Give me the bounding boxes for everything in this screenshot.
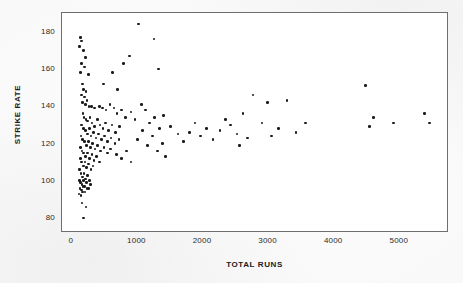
data-point — [80, 135, 83, 138]
data-points-layer — [62, 13, 447, 231]
data-point — [162, 114, 165, 117]
data-point — [205, 127, 208, 130]
data-point — [157, 68, 160, 71]
data-point — [83, 172, 86, 175]
y-tick-label: 100 — [3, 175, 55, 184]
data-point — [91, 122, 94, 125]
data-point — [86, 133, 89, 136]
data-point — [116, 112, 119, 115]
plot-area — [61, 12, 448, 232]
data-point — [116, 88, 119, 91]
data-point — [105, 109, 108, 112]
scatter-plot-figure: 80100120140160180 010002000300040005000 … — [0, 0, 463, 283]
data-point — [79, 36, 82, 39]
data-point — [364, 84, 367, 87]
data-point — [82, 217, 85, 220]
data-point — [118, 125, 121, 128]
data-point — [146, 144, 149, 147]
data-point — [81, 176, 84, 179]
data-point — [182, 140, 185, 143]
data-point — [158, 127, 161, 130]
data-point — [93, 125, 96, 128]
data-point — [78, 45, 81, 48]
data-point — [89, 183, 92, 186]
data-point — [82, 49, 85, 52]
data-point — [103, 146, 106, 149]
data-point — [109, 103, 112, 106]
data-point — [286, 99, 289, 102]
data-point — [246, 137, 249, 140]
data-point — [188, 131, 191, 134]
data-point — [224, 118, 227, 121]
data-point — [85, 144, 88, 147]
data-point — [90, 105, 93, 108]
x-axis-title: TOTAL RUNS — [61, 260, 448, 269]
data-point — [304, 122, 307, 125]
data-point — [82, 185, 85, 188]
data-point — [79, 71, 82, 74]
data-point — [153, 38, 156, 41]
data-point — [114, 131, 117, 134]
data-point — [84, 155, 87, 158]
data-point — [84, 178, 87, 181]
data-point — [96, 118, 99, 121]
x-tick-label: 2000 — [179, 236, 225, 245]
y-axis-tick-labels: 80100120140160180 — [0, 12, 55, 232]
data-point — [79, 157, 82, 160]
data-point — [79, 146, 82, 149]
data-point — [86, 187, 89, 190]
y-tick-label: 120 — [3, 138, 55, 147]
data-point — [82, 165, 85, 168]
data-point — [86, 174, 89, 177]
data-point — [87, 163, 90, 166]
data-point — [85, 181, 88, 184]
data-point — [110, 137, 113, 140]
data-point — [199, 135, 202, 138]
data-point — [111, 71, 114, 74]
data-point — [368, 125, 371, 128]
data-point — [100, 138, 103, 141]
data-point — [97, 133, 100, 136]
data-point — [98, 105, 101, 108]
data-point — [229, 124, 232, 127]
y-axis-title: STRIKE RATE — [13, 60, 22, 170]
data-point — [124, 116, 127, 119]
data-point — [85, 206, 88, 209]
data-point — [87, 73, 90, 76]
data-point — [219, 129, 222, 132]
data-point — [161, 142, 164, 145]
data-point — [106, 140, 109, 143]
data-point — [83, 140, 86, 143]
data-point — [392, 122, 395, 125]
y-tick-label: 160 — [3, 63, 55, 72]
data-point — [107, 129, 110, 132]
data-point — [93, 159, 96, 162]
data-point — [84, 161, 87, 164]
data-point — [87, 140, 90, 143]
data-point — [194, 122, 197, 125]
data-point — [80, 124, 83, 127]
data-point — [86, 99, 89, 102]
data-point — [83, 96, 86, 99]
data-point — [84, 129, 87, 132]
x-tick-label: 0 — [48, 236, 94, 245]
data-point — [104, 122, 107, 125]
data-point — [428, 122, 431, 125]
data-point — [80, 161, 83, 164]
data-point — [99, 124, 102, 127]
data-point — [89, 146, 92, 149]
data-point — [92, 165, 95, 168]
data-point — [109, 148, 112, 151]
data-point — [266, 101, 269, 104]
data-point — [270, 135, 273, 138]
data-point — [90, 135, 93, 138]
data-point — [130, 111, 133, 114]
data-point — [164, 155, 167, 158]
data-point — [86, 152, 89, 155]
data-point — [115, 153, 118, 156]
y-tick-label: 140 — [3, 101, 55, 110]
data-point — [81, 202, 84, 205]
data-point — [84, 191, 87, 194]
data-point — [92, 131, 95, 134]
data-point — [84, 56, 87, 59]
